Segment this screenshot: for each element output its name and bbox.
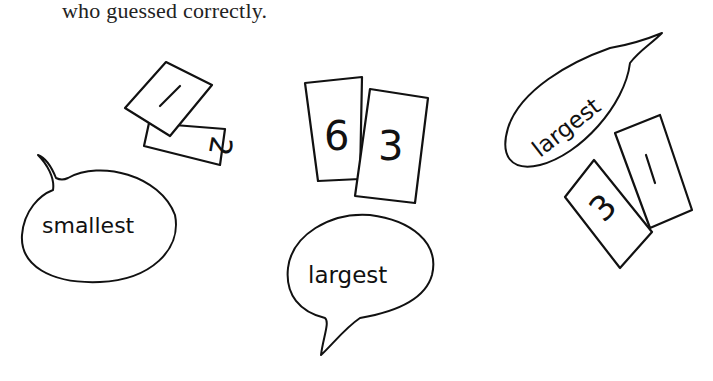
card-6: 6 <box>305 77 362 181</box>
card-3-middle: 3 <box>355 89 428 203</box>
bubble-label: largest <box>308 262 387 288</box>
illustration: 2 smallest 6 3 largest largest <box>0 0 713 381</box>
card-value: 6 <box>324 113 349 159</box>
speech-bubble-largest-middle: largest <box>288 215 434 355</box>
bubble-label: smallest <box>42 213 135 238</box>
card-group-middle: 6 3 <box>305 77 428 203</box>
speech-bubble-smallest: smallest <box>22 155 176 282</box>
card-value: 3 <box>378 123 403 169</box>
card-1-left <box>125 62 212 136</box>
card-group-left: 2 <box>125 62 240 165</box>
